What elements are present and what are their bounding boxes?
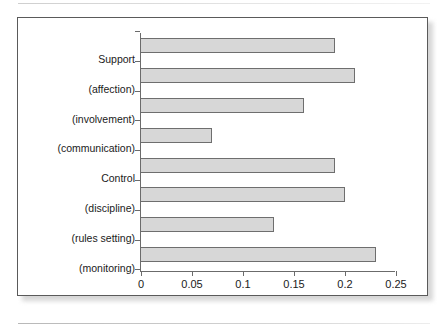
- x-axis-tick: [141, 271, 142, 276]
- x-axis-tick: [345, 271, 346, 276]
- x-axis-tick-label: 0.2: [337, 278, 352, 290]
- bar: [141, 247, 376, 262]
- x-axis-tick: [192, 271, 193, 276]
- category-label: (communication): [18, 142, 135, 154]
- y-axis-tick: [135, 91, 140, 92]
- category-label: (monitoring): [18, 262, 135, 274]
- bar-chart-plot-area: Support(affection)(involvement)(communic…: [18, 18, 427, 295]
- y-axis-tick: [135, 120, 140, 121]
- category-label: (discipline): [18, 202, 135, 214]
- y-axis-tick: [135, 31, 140, 32]
- x-axis-tick: [396, 271, 397, 276]
- chart-figure-frame: Support(affection)(involvement)(communic…: [17, 17, 428, 296]
- x-axis-tick-label: 0: [138, 278, 144, 290]
- top-divider-rule: [18, 3, 430, 4]
- x-axis-tick-label: 0.05: [181, 278, 202, 290]
- category-label: (involvement): [18, 113, 135, 125]
- y-axis-category-labels: Support(affection)(involvement)(communic…: [18, 31, 135, 271]
- y-axis-tick: [135, 240, 140, 241]
- bar: [141, 38, 335, 53]
- x-axis-tick-label: 0.1: [235, 278, 250, 290]
- y-axis-tick: [135, 61, 140, 62]
- x-axis-line: [140, 271, 395, 272]
- bar: [141, 98, 304, 113]
- category-label: Support: [18, 53, 135, 65]
- bar-series: [141, 33, 401, 271]
- category-label: Control: [18, 172, 135, 184]
- bar: [141, 217, 274, 232]
- bar: [141, 158, 335, 173]
- y-axis-tick: [135, 150, 140, 151]
- y-axis-tick: [135, 180, 140, 181]
- y-axis-tick: [135, 210, 140, 211]
- category-label: (rules setting): [18, 232, 135, 244]
- x-axis-tick: [243, 271, 244, 276]
- category-label: (affection): [18, 83, 135, 95]
- x-axis-tick: [294, 271, 295, 276]
- bar: [141, 128, 212, 143]
- bar: [141, 68, 355, 83]
- bar: [141, 187, 345, 202]
- x-axis-tick-label: 0.25: [385, 278, 406, 290]
- bottom-divider-rule: [18, 323, 430, 324]
- x-axis-tick-label: 0.15: [283, 278, 304, 290]
